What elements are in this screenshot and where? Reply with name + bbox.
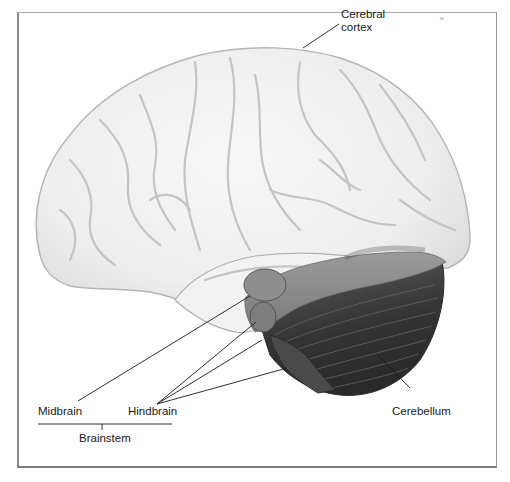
label-cerebral-cortex-line1: Cerebral [341,8,385,21]
label-cerebellum: Cerebellum [392,405,451,418]
midbrain [244,269,286,301]
pons-bulge [250,302,276,332]
hindbrain-leader-1 [157,322,256,404]
label-hindbrain: Hindbrain [128,405,177,418]
hindbrain-leader-3 [157,368,287,404]
stray-mark: u [440,15,443,21]
label-cerebral-cortex-line2: cortex [341,21,372,34]
cerebral-cortex-leader [303,24,339,48]
label-brainstem: Brainstem [79,432,131,445]
label-midbrain: Midbrain [38,405,82,418]
hindbrain-leader-2 [157,340,262,404]
